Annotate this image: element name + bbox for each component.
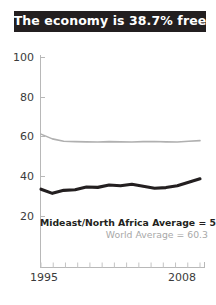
line-chart: 100 80 60 40 20 1995 2008: [0, 0, 216, 305]
series-line-mideast-north-africa: [41, 179, 200, 194]
chart-legend: Mideast/North Africa Average = 58.7 Worl…: [40, 217, 210, 240]
legend-item-mideast: Mideast/North Africa Average = 58.7: [40, 217, 210, 229]
y-tick-marks: [41, 58, 46, 217]
x-tick-label-end: 2008: [168, 272, 196, 283]
x-tick-marks: [41, 263, 200, 268]
legend-item-world: World Average = 60.3: [40, 229, 210, 241]
series-line-world-average: [41, 134, 200, 142]
plot-area: [0, 0, 216, 305]
x-tick-label-start: 1995: [30, 272, 58, 283]
